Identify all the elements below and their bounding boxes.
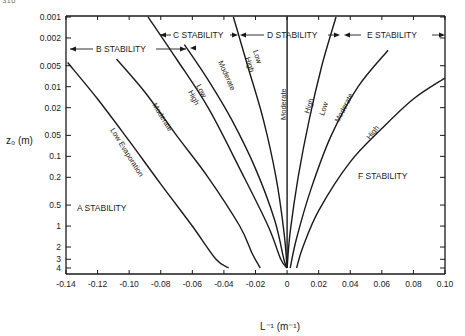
y-tick-label: 0.5: [49, 200, 61, 210]
x-tick-label: 0.08: [405, 279, 422, 289]
stability-curve: [290, 50, 388, 268]
curve-label-moderate-c: Moderate: [216, 59, 237, 92]
d-stability-label: D STABILITY: [267, 30, 318, 40]
y-tick-label: 0.2: [49, 172, 61, 182]
curve-label-moderate-b: Moderate: [150, 101, 174, 133]
x-tick-label: -0.08: [151, 279, 171, 289]
d-stability-range: D STABILITY: [240, 30, 340, 40]
a-stability-label: A STABILITY: [77, 203, 127, 213]
b-stability-range: B STABILITY: [70, 44, 186, 54]
x-tick-label: 0.10: [437, 279, 454, 289]
x-tick-label: 0.02: [310, 279, 327, 289]
y-tick-label: 0.005: [40, 61, 62, 71]
e-stability-label: E STABILITY: [367, 30, 417, 40]
b-stability-label: B STABILITY: [96, 44, 146, 54]
curve-label-low-de: Low: [317, 100, 330, 116]
c-stability-range: C STABILITY: [160, 30, 238, 40]
y-tick-label: 0.05: [44, 130, 61, 140]
x-tick-label: 0: [285, 279, 290, 289]
y-tick-label: 0.02: [44, 103, 61, 113]
x-tick-label: -0.04: [214, 279, 234, 289]
y-axis-label: z₀ (m): [6, 135, 33, 146]
y-tick-label: 2: [56, 242, 61, 252]
x-tick-label: -0.12: [88, 279, 108, 289]
x-axis-label: L⁻¹ (m⁻¹): [260, 321, 300, 332]
stability-curve: [148, 17, 287, 268]
stability-chart: -0.14-0.12-0.10-0.08-0.06-0.04-0.0200.02…: [0, 0, 465, 336]
y-tick-label: 0.002: [40, 33, 62, 43]
curve-label-moderate-d: Moderate: [279, 88, 288, 120]
x-tick-label: -0.14: [56, 279, 76, 289]
c-stability-marker: [190, 46, 196, 51]
y-tick-label: 0.1: [49, 151, 61, 161]
y-tick-label: 1: [56, 221, 61, 231]
x-tick-label: -0.06: [183, 279, 203, 289]
x-tick-label: 0.04: [342, 279, 359, 289]
y-tick-label: 0.001: [40, 12, 62, 22]
curve-label-high-de: High: [302, 97, 315, 114]
c-stability-label: C STABILITY: [173, 30, 224, 40]
y-tick-label: 4: [56, 263, 61, 273]
curve-label-low-evaporation: Low Evaporation: [108, 126, 145, 178]
y-tick-label: 0.01: [44, 82, 61, 92]
e-stability-range: E STABILITY: [344, 30, 445, 40]
x-tick-label: -0.02: [246, 279, 266, 289]
f-stability-label: F STABILITY: [358, 171, 408, 181]
x-tick-label: -0.10: [119, 279, 139, 289]
x-tick-label: 0.06: [374, 279, 391, 289]
curve-label-moderate-e: Moderate: [333, 92, 355, 124]
